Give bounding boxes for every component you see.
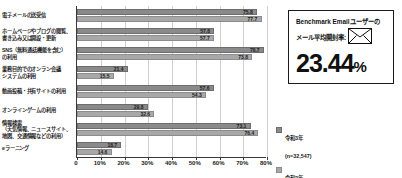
gridline — [267, 6, 268, 157]
bar-1-6 — [77, 130, 258, 136]
bar-value-label: 32.6 — [140, 111, 150, 117]
category-label-email: 電子メールの送受信 — [2, 12, 76, 18]
callout-card: Benchmark Emailユーザーの メール平均開封率: 23.44% — [288, 10, 394, 84]
bar-0-4 — [77, 85, 214, 91]
callout-subtitle-row: メール平均開封率: — [296, 28, 387, 48]
bar-1-4 — [77, 92, 206, 98]
legend-swatch-icon — [276, 167, 282, 173]
callout-subtitle: メール平均開封率: — [296, 34, 346, 42]
x-axis-tick-label: 80% — [260, 160, 272, 166]
category-label-sns: SNS（無料通話機能を含む）の利用 — [2, 47, 76, 60]
chart-screenshot: 電子メールの送受信 ホームページやブログの閲覧、書き込み又は開設・更新 SNS（… — [0, 0, 402, 178]
bar-value-label: 15.5 — [100, 73, 110, 79]
category-label-online-meeting: 業務目的でのオンラン会議システムの利用 — [2, 66, 76, 79]
bar-value-label: 75.8 — [243, 9, 253, 15]
callout-value: 23.44% — [296, 49, 387, 81]
bar-value-label: 14.6 — [98, 149, 108, 155]
bar-value-label: 57.7 — [200, 35, 210, 41]
bar-value-label: 73.8 — [238, 54, 248, 60]
category-label-online-games: オンラインゲームの利用 — [2, 107, 76, 113]
bar-chart: 電子メールの送受信 ホームページやブログの閲覧、書き込み又は開設・更新 SNS（… — [0, 0, 272, 178]
bar-value-label: 29.8 — [134, 104, 144, 110]
bar-0-0 — [77, 9, 257, 15]
bar-value-label: 57.8 — [200, 28, 210, 34]
chart-legend: 令和3年 (n=32,547) 令和2年 (n=31,958) — [276, 126, 400, 178]
category-label-info-search: 情報検索（天気情報、ニュースサイト、地図、交通情報などの利用） — [2, 120, 76, 139]
category-label-video-sharing: 動画投稿・共有サイトの利用 — [2, 88, 76, 94]
bar-value-label: 73.1 — [237, 123, 247, 129]
bar-1-2 — [77, 54, 252, 60]
category-label-website: ホームページやブログの閲覧、書き込み又は開設・更新 — [2, 28, 76, 41]
bar-0-2 — [77, 47, 264, 53]
x-axis-tick-label: 0 — [74, 160, 77, 166]
x-axis-tick-label: 50% — [189, 160, 201, 166]
bar-value-label: 76.4 — [244, 130, 254, 136]
x-axis-tick-label: 60% — [212, 160, 224, 166]
callout-percent-sign: % — [354, 58, 367, 75]
legend-swatch-icon — [276, 127, 282, 133]
legend-label: 令和3年 — [285, 135, 303, 141]
bar-0-1 — [77, 28, 214, 34]
bar-value-label: 54.3 — [192, 92, 202, 98]
bar-0-6 — [77, 123, 251, 129]
bar-1-0 — [77, 16, 262, 22]
plot-area: 75.877.757.857.778.773.821.415.557.654.3… — [76, 6, 266, 158]
category-label-elearning: eラーニング — [2, 145, 76, 151]
legend-item-reiwa2: 令和2年 (n=31,958) — [276, 166, 400, 178]
bar-value-label: 77.7 — [248, 16, 258, 22]
legend-label: 令和2年 — [285, 175, 303, 178]
bar-value-label: 18.7 — [107, 142, 117, 148]
callout-number: 23.44 — [296, 49, 354, 77]
x-axis-tick-label: 70% — [236, 160, 248, 166]
bar-value-label: 21.4 — [114, 66, 124, 72]
bar-1-1 — [77, 35, 214, 41]
legend-sample-size: (n=32,547) — [285, 153, 312, 159]
x-axis-tick-label: 10% — [94, 160, 106, 166]
x-axis-tick-label: 20% — [117, 160, 129, 166]
x-axis-tick-label: 30% — [141, 160, 153, 166]
bar-value-label: 78.7 — [250, 47, 260, 53]
callout-title: Benchmark Emailユーザーの — [296, 18, 387, 26]
x-axis-tick-label: 40% — [165, 160, 177, 166]
legend-item-reiwa3: 令和3年 (n=32,547) — [276, 126, 400, 162]
envelope-icon — [348, 28, 372, 48]
bar-value-label: 57.6 — [200, 85, 210, 91]
